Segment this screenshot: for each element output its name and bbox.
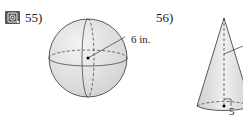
sphere-radius-label: 6 in. (131, 32, 151, 46)
cone-radius-label: 5 ft (229, 104, 243, 118)
sphere-figure (49, 19, 127, 97)
cone-figure (197, 18, 243, 111)
figures (0, 0, 243, 118)
